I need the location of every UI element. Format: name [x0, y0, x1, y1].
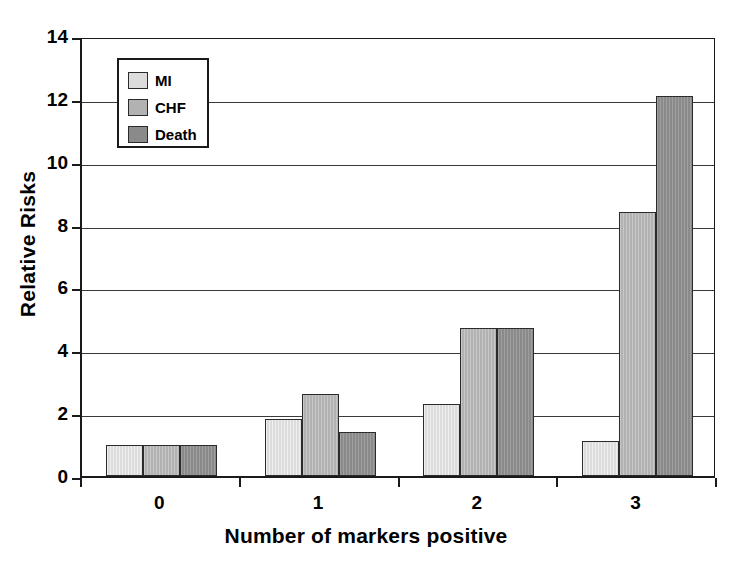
bar-chart: Relative Risks 14121086420 0123 Number o…: [0, 0, 732, 568]
bar-mi-2: [423, 404, 460, 476]
bar-death-1: [339, 432, 376, 476]
legend-item-chf: CHF: [128, 94, 207, 121]
x-axis-title: Number of markers positive: [0, 524, 732, 548]
x-tick-mark: [80, 478, 82, 487]
bar-chf-1: [302, 394, 339, 476]
y-tick-mark: [72, 352, 80, 354]
bar-chf-3: [619, 212, 656, 476]
bar-death-2: [497, 328, 534, 476]
x-tick-mark: [398, 478, 400, 487]
gridline: [82, 165, 714, 166]
bar-death-3: [656, 96, 693, 476]
bar-mi-1: [265, 419, 302, 476]
bar-death-0: [180, 445, 217, 476]
legend-item-mi: MI: [128, 67, 207, 94]
y-tick-mark: [72, 227, 80, 229]
y-tick-mark: [72, 415, 80, 417]
legend-label: MI: [155, 72, 172, 89]
y-tick-label: 0: [28, 467, 68, 486]
legend-item-death: Death: [128, 121, 207, 148]
bar-chf-0: [143, 445, 180, 476]
bar-mi-0: [106, 445, 143, 476]
bar-mi-3: [582, 441, 619, 476]
legend-swatch-chf: [128, 99, 148, 116]
x-tick-mark: [556, 478, 558, 487]
y-axis: 14121086420: [0, 0, 68, 568]
y-tick-mark: [72, 289, 80, 291]
y-tick-label: 10: [28, 153, 68, 172]
x-tick-label: 3: [596, 492, 676, 514]
y-tick-label: 2: [28, 404, 68, 423]
bar-chf-2: [460, 328, 497, 476]
x-tick-label: 0: [119, 492, 199, 514]
legend-label: Death: [155, 126, 197, 143]
legend-label: CHF: [155, 99, 186, 116]
y-tick-label: 8: [28, 216, 68, 235]
y-tick-mark: [72, 38, 80, 40]
y-tick-label: 14: [28, 27, 68, 46]
x-tick-label: 1: [278, 492, 358, 514]
y-tick-label: 6: [28, 278, 68, 297]
y-tick-mark: [72, 101, 80, 103]
legend-swatch-death: [128, 126, 148, 143]
y-tick-mark: [72, 164, 80, 166]
x-tick-mark: [239, 478, 241, 487]
x-tick-mark: [715, 478, 717, 487]
y-tick-label: 4: [28, 341, 68, 360]
y-tick-mark: [72, 478, 80, 480]
y-tick-label: 12: [28, 90, 68, 109]
legend-swatch-mi: [128, 72, 148, 89]
x-tick-label: 2: [437, 492, 517, 514]
legend: MICHFDeath: [117, 58, 209, 148]
